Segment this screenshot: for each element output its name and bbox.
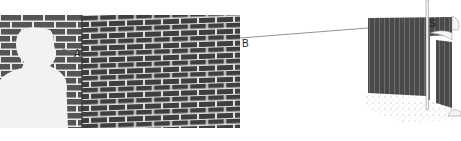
sight-line-b <box>240 28 368 38</box>
label-a: A <box>74 48 81 59</box>
fence-lower <box>436 40 452 108</box>
brick-wall-right <box>82 15 240 128</box>
pole <box>426 0 429 110</box>
diagram: A B S <box>0 0 461 141</box>
label-b: B <box>242 38 249 49</box>
label-s: S <box>429 18 436 29</box>
figure-arm <box>452 16 459 30</box>
